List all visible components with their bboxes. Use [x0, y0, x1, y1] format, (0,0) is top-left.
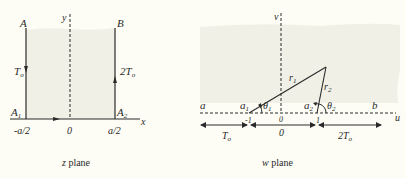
- w-segment-left-temperature: To: [222, 130, 232, 143]
- z-right-temperature: 2To: [120, 65, 136, 79]
- w-tick-0: 0: [279, 115, 283, 124]
- w-theta2-arc: [315, 104, 326, 113]
- w-segment-right-temperature: 2To: [338, 130, 353, 143]
- w-label-a: a: [200, 99, 206, 111]
- z-plane-caption: z plane: [61, 157, 91, 168]
- z-left-temperature: To: [14, 65, 24, 79]
- z-x-axis-label: x: [140, 116, 146, 127]
- conformal-mapping-diagram: y x A B A1 A2 To 2To: [0, 0, 406, 178]
- w-plane-caption: w plane: [262, 157, 293, 168]
- w-plane-shaded-region: [200, 24, 400, 103]
- w-tick-1: 1: [316, 116, 320, 125]
- z-y-axis-label: y: [61, 12, 67, 23]
- w-segment-mid-value: 0: [279, 127, 284, 138]
- z-point-A: A: [19, 17, 27, 29]
- z-point-A2: A2: [116, 106, 128, 120]
- w-v-axis-label: v: [274, 11, 279, 22]
- z-tick-center: 0: [67, 125, 72, 136]
- z-point-A1: A1: [10, 106, 21, 120]
- z-point-B: B: [117, 17, 124, 29]
- z-tick-left: -a/2: [14, 125, 30, 136]
- w-plane: v u r1 r2 θ1 θ2 a: [200, 11, 400, 168]
- w-label-b: b: [372, 99, 378, 111]
- w-u-axis-label: u: [395, 112, 400, 123]
- w-tick-neg1: -1: [245, 116, 252, 125]
- z-tick-right: a/2: [108, 125, 121, 136]
- z-plane: y x A B A1 A2 To 2To: [10, 12, 146, 168]
